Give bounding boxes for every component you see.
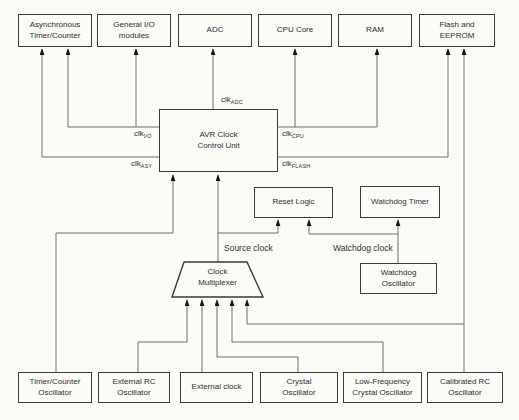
- box-crystal-oscillator: Crystal Oscillator: [260, 372, 338, 403]
- label-clk-io: clkI/O: [134, 130, 152, 140]
- box-external-clock: External clock: [180, 372, 253, 403]
- wire-low-freq-crystal: [232, 300, 383, 372]
- box-avr-clock-control-unit: AVR Clock Control Unit: [159, 109, 278, 172]
- wire-clk-io: [68, 49, 159, 127]
- box-calibrated-rc-oscillator: Calibrated RC Oscillator: [427, 372, 503, 403]
- box-watchdog-oscillator: Watchdog Oscillator: [360, 263, 437, 294]
- box-ram: RAM: [338, 14, 412, 47]
- box-adc: ADC: [178, 14, 252, 47]
- clock-multiplexer-label: Clock Multiplexer: [172, 266, 263, 288]
- wire-external-rc: [138, 300, 187, 372]
- wire-watchdog-clock: [309, 220, 398, 263]
- box-low-frequency-crystal-oscillator: Low-Frequency Crystal Oscillator: [343, 372, 422, 403]
- label-clk-flash: clkFLASH: [282, 160, 311, 170]
- label-watchdog-clock: Watchdog clock: [333, 244, 393, 253]
- box-watchdog-timer: Watchdog Timer: [360, 186, 440, 218]
- avr-clock-distribution-diagram: Asynchronous Timer/Counter General I/O m…: [0, 0, 519, 420]
- box-timer-counter-oscillator: Timer/Counter Oscillator: [18, 372, 92, 403]
- box-flash-eeprom: Flash and EEPROM: [419, 14, 495, 47]
- box-general-io-modules: General I/O modules: [97, 14, 171, 47]
- label-clk-asy: clkASY: [131, 160, 152, 170]
- box-async-timer-counter: Asynchronous Timer/Counter: [18, 14, 92, 47]
- box-cpu-core: CPU Core: [258, 14, 332, 47]
- label-source-clock: Source clock: [224, 244, 273, 253]
- wire-clk-cpu: [278, 49, 377, 127]
- label-clk-adc: clkADC: [221, 96, 243, 106]
- box-reset-logic: Reset Logic: [254, 187, 333, 218]
- box-external-rc-oscillator: External RC Oscillator: [98, 372, 170, 403]
- wire-clk-flash: [278, 49, 448, 157]
- label-clk-cpu: clkCPU: [282, 130, 304, 140]
- wire-clk-asy: [42, 49, 159, 157]
- wire-crystal: [217, 300, 298, 372]
